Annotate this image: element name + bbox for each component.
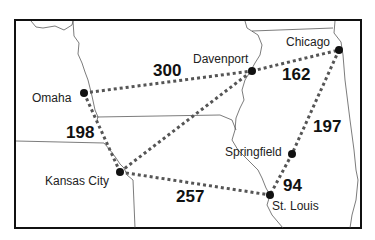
distance-springfield-st-louis: 94 <box>283 177 302 194</box>
city-label-kansas-city: Kansas City <box>45 175 109 187</box>
distance-omaha-davenport: 300 <box>153 62 181 79</box>
city-label-davenport: Davenport <box>193 53 248 65</box>
city-label-st-louis: St. Louis <box>272 200 319 212</box>
city-dot-kansas-city <box>116 168 124 176</box>
city-dot-chicago <box>335 46 343 54</box>
distance-omaha-kansas-city: 198 <box>66 124 94 141</box>
city-dot-davenport <box>248 67 256 75</box>
city-dot-springfield <box>288 150 296 158</box>
city-dot-st-louis <box>266 191 274 199</box>
distance-davenport-chicago: 162 <box>282 66 310 83</box>
distance-kansas-city-st-louis: 257 <box>176 188 204 205</box>
city-label-chicago: Chicago <box>286 36 330 48</box>
distance-chicago-springfield: 197 <box>313 118 341 135</box>
city-label-omaha: Omaha <box>32 92 71 104</box>
city-label-springfield: Springfield <box>225 146 282 158</box>
city-dot-omaha <box>80 89 88 97</box>
